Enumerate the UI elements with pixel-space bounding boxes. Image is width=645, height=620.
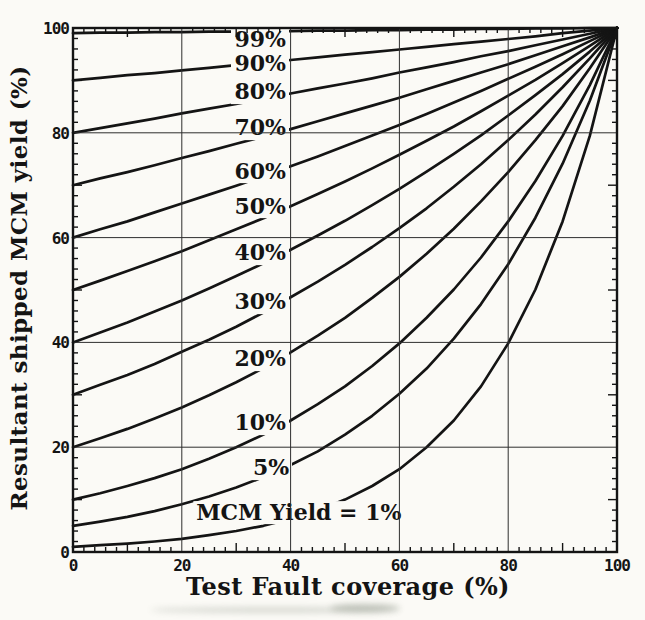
- y-tick-label: 60: [52, 228, 69, 247]
- curve-label: MCM Yield = 1%: [193, 501, 404, 525]
- x-tick-label: 0: [69, 556, 78, 575]
- x-tick-label: 100: [604, 556, 630, 575]
- mcm-yield-figure: 99%90%80%70%60%50%40%30%20%10%5%MCM Yiel…: [0, 0, 645, 620]
- curve-label: 40%: [231, 241, 289, 265]
- curve-label: 80%: [231, 80, 289, 104]
- yield-curve-40: [73, 28, 617, 342]
- curve-label: 70%: [231, 116, 289, 140]
- yield-curve-10: [73, 28, 617, 500]
- curve-label: 99%: [231, 28, 289, 52]
- yield-curve-50: [73, 28, 617, 290]
- yield-curve-5: [73, 28, 617, 526]
- curve-label: 30%: [231, 290, 289, 314]
- yield-curve-60: [73, 28, 617, 238]
- curve-labels: 99%90%80%70%60%50%40%30%20%10%5%MCM Yiel…: [0, 0, 645, 620]
- curve-label: 10%: [231, 411, 289, 435]
- y-axis-title: Resultant shipped MCM yield (%): [5, 65, 32, 510]
- yield-curve-70: [73, 28, 617, 185]
- yield-curve-90: [73, 28, 617, 80]
- curve-label: 5%: [250, 456, 292, 480]
- curve-label: 60%: [231, 160, 289, 184]
- curve-label: 50%: [231, 195, 289, 219]
- yield-curve-80: [73, 28, 617, 133]
- yield-curve-20: [73, 28, 617, 447]
- x-tick-label: 40: [282, 556, 299, 575]
- minor-ticks: [73, 28, 617, 552]
- y-tick-label: 20: [52, 438, 69, 457]
- axes-grid: [0, 0, 645, 620]
- y-tick-label: 80: [52, 123, 69, 142]
- x-tick-label: 80: [500, 556, 517, 575]
- y-tick-label: 40: [52, 333, 69, 352]
- x-axis-title: Test Fault coverage (%): [186, 572, 510, 601]
- plot-frame: [73, 28, 617, 552]
- curve-label: 20%: [231, 347, 289, 371]
- yield-curve-set: [73, 28, 617, 547]
- gridlines: [73, 28, 617, 552]
- y-tick-label: 100: [43, 19, 69, 38]
- yield-curve-30: [73, 28, 617, 395]
- curve-label: 90%: [231, 52, 289, 76]
- yield-curve-99: [73, 28, 617, 33]
- scan-smudge: [330, 604, 400, 612]
- x-tick-label: 20: [173, 556, 190, 575]
- yield-curves: [0, 0, 645, 620]
- y-tick-label: 0: [60, 543, 69, 562]
- yield-curve-1: [73, 28, 617, 547]
- x-tick-label: 60: [391, 556, 408, 575]
